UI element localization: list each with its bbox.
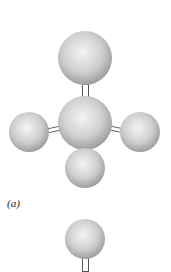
- right-atom: [120, 112, 160, 152]
- panel-label-a: (a): [7, 197, 20, 209]
- left-atom: [9, 112, 49, 152]
- bottom-atom: [65, 148, 105, 188]
- center-atom: [58, 96, 112, 150]
- top-atom: [58, 31, 112, 85]
- single-atom: [65, 219, 105, 259]
